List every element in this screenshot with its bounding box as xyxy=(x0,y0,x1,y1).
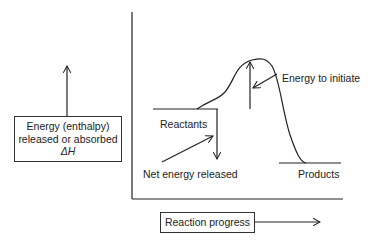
y-axis-label-line3: ΔH xyxy=(15,145,121,158)
y-axis-label-box: Energy (enthalpy) released or absorbed Δ… xyxy=(14,116,122,162)
y-axis-label-line1: Energy (enthalpy) xyxy=(15,120,121,133)
x-axis-label: Reaction progress xyxy=(165,216,250,228)
x-axis-label-box: Reaction progress xyxy=(160,212,255,233)
energy-to-initiate-pointer xyxy=(253,74,277,88)
y-axis-label-line2: released or absorbed xyxy=(15,133,121,146)
net-energy-released-label: Net energy released xyxy=(143,168,238,180)
products-label: Products xyxy=(298,168,339,180)
reactants-label: Reactants xyxy=(160,118,207,130)
energy-to-initiate-label: Energy to initiate xyxy=(282,72,360,84)
net-energy-pointer xyxy=(162,136,213,162)
